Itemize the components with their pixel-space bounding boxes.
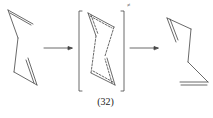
reaction-arrow [130,47,158,50]
reactant-molecule [8,10,37,85]
product-molecule [167,18,208,85]
equation-number: (32) [97,96,114,107]
transition-state-symbol: ≠ [127,2,130,8]
transition-state-brackets [79,11,124,91]
equation-label: (32) [0,96,213,107]
reaction-arrow [44,47,72,50]
transition-state-molecule [88,13,115,85]
